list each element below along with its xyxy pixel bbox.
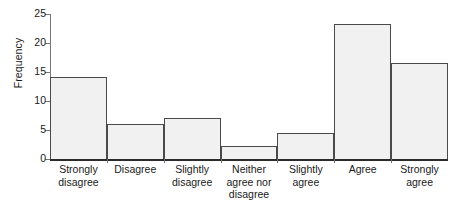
x-axis-tick-label-line: Neither bbox=[221, 163, 278, 176]
x-axis-tick-label-line: agree nor bbox=[221, 176, 278, 189]
x-axis-tick-label: Stronglydisagree bbox=[50, 163, 107, 188]
y-axis-tick-label: 15 bbox=[34, 65, 46, 78]
x-axis-line bbox=[50, 159, 448, 161]
bar bbox=[277, 133, 334, 159]
bar bbox=[107, 124, 164, 159]
x-axis-tick-label-line: Strongly bbox=[391, 163, 448, 176]
x-axis-tick-label-line: disagree bbox=[221, 188, 278, 201]
plot-area: 0510152025 bbox=[50, 14, 448, 159]
bar bbox=[50, 77, 107, 159]
y-axis-tick-label: 25 bbox=[34, 7, 46, 20]
y-axis-tick-label: 10 bbox=[34, 94, 46, 107]
x-axis-tick-label: Slightlyagree bbox=[277, 163, 334, 188]
x-axis-tick-label-line: agree bbox=[277, 176, 334, 189]
x-axis-tick-label: Disagree bbox=[107, 163, 164, 176]
bar bbox=[334, 24, 391, 159]
x-axis-tick-label: Neitheragree nordisagree bbox=[221, 163, 278, 201]
x-axis-tick-label: Slightlydisagree bbox=[164, 163, 221, 188]
x-axis-tick-label-line: Strongly bbox=[50, 163, 107, 176]
y-axis-tick-label: 20 bbox=[34, 36, 46, 49]
x-axis-tick-label-line: disagree bbox=[164, 176, 221, 189]
y-axis-tick-label: 0 bbox=[40, 152, 46, 165]
x-axis-labels: StronglydisagreeDisagreeSlightlydisagree… bbox=[50, 163, 448, 211]
bar bbox=[164, 118, 221, 159]
x-axis-tick-label-line: Agree bbox=[334, 163, 391, 176]
y-axis-title: Frequency bbox=[12, 0, 24, 128]
x-axis-tick-label: Agree bbox=[334, 163, 391, 176]
x-axis-tick-label-line: Slightly bbox=[164, 163, 221, 176]
x-axis-tick-label-line: disagree bbox=[50, 176, 107, 189]
y-axis-tick-label: 5 bbox=[40, 123, 46, 136]
x-axis-tick-label-line: Slightly bbox=[277, 163, 334, 176]
bar bbox=[221, 146, 278, 159]
x-axis-tick-label-line: agree bbox=[391, 176, 448, 189]
bar-chart: Frequency 0510152025 StronglydisagreeDis… bbox=[0, 0, 451, 213]
x-axis-tick-label-line: Disagree bbox=[107, 163, 164, 176]
bar bbox=[391, 63, 448, 159]
x-axis-tick-label: Stronglyagree bbox=[391, 163, 448, 188]
